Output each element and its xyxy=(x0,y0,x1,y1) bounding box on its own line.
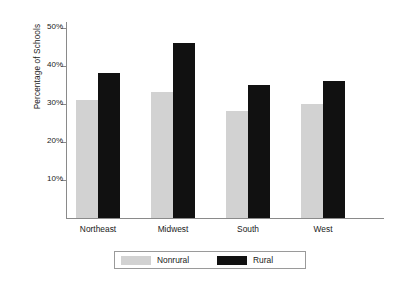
bar-nonrural-south[interactable] xyxy=(226,111,248,218)
bar-rural-midwest[interactable] xyxy=(173,43,195,218)
legend-swatch-rural-icon xyxy=(217,256,247,265)
y-axis-tick-label: 30% xyxy=(47,98,63,107)
bar-rural-northeast[interactable] xyxy=(98,73,120,218)
y-axis-title: Percentage of Schools xyxy=(33,0,42,152)
legend-label-rural: Rural xyxy=(253,255,273,265)
chart-legend: Nonrural Rural xyxy=(114,251,306,269)
bar-group xyxy=(301,20,345,218)
bar-nonrural-midwest[interactable] xyxy=(151,92,173,218)
bar-rural-west[interactable] xyxy=(323,81,345,218)
bar-group xyxy=(76,20,120,218)
y-axis-tick-label: 40% xyxy=(47,60,63,69)
x-axis-line xyxy=(66,218,384,219)
bar-nonrural-west[interactable] xyxy=(301,104,323,218)
y-axis-line xyxy=(66,22,67,219)
legend-swatch-nonrural-icon xyxy=(121,256,151,265)
y-axis-tick-label: 50% xyxy=(47,22,63,31)
bar-chart-figure: Percentage of Schools 10%20%30%40%50% No… xyxy=(0,0,400,284)
plot-area: 10%20%30%40%50% NortheastMidwestSouthWes… xyxy=(66,20,384,219)
y-axis-tick-label: 20% xyxy=(47,136,63,145)
y-axis-tick-label: 10% xyxy=(47,174,63,183)
legend-label-nonrural: Nonrural xyxy=(157,255,189,265)
bar-group xyxy=(151,20,195,218)
legend-entry-nonrural[interactable]: Nonrural xyxy=(121,252,189,268)
x-axis-label-west: West xyxy=(278,224,368,234)
bar-nonrural-northeast[interactable] xyxy=(76,100,98,218)
bar-rural-south[interactable] xyxy=(248,85,270,218)
bar-group xyxy=(226,20,270,218)
legend-entry-rural[interactable]: Rural xyxy=(217,252,273,268)
